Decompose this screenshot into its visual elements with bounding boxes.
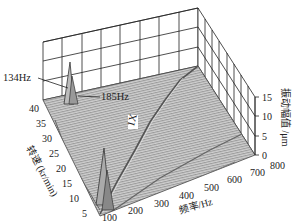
svg-text:25: 25 bbox=[49, 148, 59, 159]
svg-text:5: 5 bbox=[82, 208, 87, 219]
svg-text:15: 15 bbox=[62, 178, 72, 189]
svg-text:5: 5 bbox=[262, 131, 267, 142]
svg-text:30: 30 bbox=[42, 133, 52, 144]
svg-text:300: 300 bbox=[154, 198, 169, 209]
amp-axis bbox=[255, 97, 259, 155]
svg-text:800: 800 bbox=[270, 160, 285, 171]
svg-text:10: 10 bbox=[262, 111, 272, 122]
svg-text:500: 500 bbox=[204, 182, 219, 193]
svg-text:40: 40 bbox=[29, 103, 39, 114]
svg-text:200: 200 bbox=[128, 205, 143, 216]
svg-text:15: 15 bbox=[262, 92, 272, 103]
svg-text:20: 20 bbox=[56, 163, 66, 174]
svg-text:0: 0 bbox=[262, 150, 267, 161]
annotation-185hz: 185Hz bbox=[101, 91, 129, 102]
svg-text:700: 700 bbox=[250, 167, 265, 178]
svg-text:400: 400 bbox=[179, 190, 194, 201]
annotation-134hz: 134Hz bbox=[3, 72, 31, 83]
svg-text:100: 100 bbox=[102, 212, 117, 223]
svg-text:35: 35 bbox=[36, 118, 46, 129]
svg-text:10: 10 bbox=[69, 193, 79, 204]
svg-text:600: 600 bbox=[227, 174, 242, 185]
amp-axis-label: 振动幅值 /μm bbox=[280, 88, 292, 147]
waterfall-chart: 134Hz 185Hz 1X 40 35 30 25 20 15 10 5 转速… bbox=[0, 0, 292, 224]
